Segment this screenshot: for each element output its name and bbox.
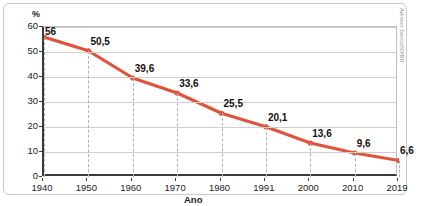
data-point-label: 50,5	[90, 37, 109, 47]
dropline	[88, 51, 89, 177]
x-tick-mark	[86, 178, 87, 181]
y-tick-label: 10	[8, 146, 38, 156]
x-tick-mark	[264, 178, 265, 181]
data-point-label: 56	[45, 27, 56, 37]
gridline	[44, 52, 396, 53]
data-point-label: 6,6	[400, 146, 414, 156]
x-tick-label: 2010	[328, 183, 378, 193]
data-point-label: 33,6	[179, 79, 198, 89]
y-tick-mark	[39, 151, 42, 152]
data-point-label: 9,6	[357, 139, 371, 149]
dropline	[399, 161, 400, 178]
data-point-label: 13,6	[312, 129, 331, 139]
x-tick-label: 1960	[106, 183, 156, 193]
y-tick-label: 60	[8, 21, 38, 31]
plot-area	[42, 26, 397, 176]
y-tick-mark	[39, 176, 42, 177]
dropline	[177, 93, 178, 177]
gridline	[44, 152, 396, 153]
x-tick-label: 1980	[195, 183, 245, 193]
dropline	[355, 153, 356, 177]
dropline	[310, 143, 311, 177]
dropline	[133, 78, 134, 177]
dropline	[266, 127, 267, 177]
y-tick-mark	[39, 51, 42, 52]
y-tick-label: 30	[8, 96, 38, 106]
x-tick-label: 2000	[283, 183, 333, 193]
y-tick-mark	[39, 126, 42, 127]
y-axis-unit-label: %	[32, 9, 40, 19]
data-point-label: 39,6	[135, 64, 154, 74]
dropline	[44, 37, 45, 177]
x-tick-label: 1970	[150, 183, 200, 193]
y-tick-label: 20	[8, 121, 38, 131]
y-tick-mark	[39, 26, 42, 27]
x-tick-mark	[175, 178, 176, 181]
y-tick-mark	[39, 76, 42, 77]
data-point-label: 25,5	[224, 99, 243, 109]
x-tick-label: 1991	[239, 183, 289, 193]
y-tick-label: 0	[8, 171, 38, 181]
y-tick-label: 40	[8, 71, 38, 81]
y-tick-mark	[39, 101, 42, 102]
x-tick-mark	[353, 178, 354, 181]
x-tick-label: 1940	[17, 183, 67, 193]
x-tick-mark	[308, 178, 309, 181]
x-tick-mark	[397, 178, 398, 181]
chart-screenshot: % 0102030405060 194019501960197019801991…	[0, 0, 421, 206]
x-tick-mark	[131, 178, 132, 181]
x-tick-mark	[42, 178, 43, 181]
data-point-label: 20,1	[268, 113, 287, 123]
gridline	[44, 102, 396, 103]
dropline	[222, 113, 223, 177]
x-tick-label: 1950	[61, 183, 111, 193]
gridline	[44, 27, 396, 28]
gridline	[44, 77, 396, 78]
figure-caption	[14, 199, 404, 206]
x-tick-mark	[220, 178, 221, 181]
figure-frame: % 0102030405060 194019501960197019801991…	[3, 3, 407, 195]
gridline	[44, 127, 396, 128]
x-tick-label: 2019	[372, 183, 421, 193]
y-tick-label: 50	[8, 46, 38, 56]
image-credit: Adilson Secco/ID/BR	[399, 8, 405, 63]
